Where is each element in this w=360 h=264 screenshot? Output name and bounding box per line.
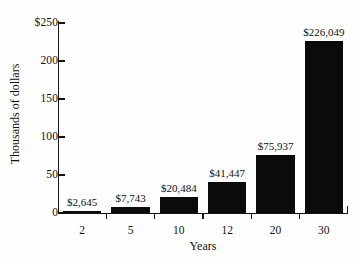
x-axis-tick-label: 2	[62, 224, 102, 236]
x-axis-title: Years	[58, 240, 348, 252]
x-axis-tick-label: 10	[159, 224, 199, 236]
bar	[256, 155, 294, 213]
x-axis-tick	[154, 213, 155, 219]
bar-chart: 050100150200$250 2510122030 $2,645$7,743…	[0, 0, 360, 264]
bar	[208, 182, 246, 213]
bar-value-label: $7,743	[98, 193, 164, 204]
bar	[160, 197, 198, 213]
x-axis-tick	[299, 213, 300, 219]
bar	[305, 41, 343, 213]
y-axis-tick-label: $250	[12, 17, 58, 29]
x-axis-tick	[251, 213, 252, 219]
x-axis-tick-label: 20	[256, 224, 296, 236]
x-axis-tick-label: 30	[304, 224, 344, 236]
bar-value-label: $41,447	[194, 168, 260, 179]
bar-value-label: $20,484	[146, 183, 212, 194]
x-axis-tick	[202, 213, 203, 219]
x-axis-tick	[106, 213, 107, 219]
bar-value-label: $226,049	[291, 27, 357, 38]
bar-value-label: $75,937	[243, 141, 309, 152]
x-axis-tick-label: 5	[111, 224, 151, 236]
x-axis-tick-label: 12	[207, 224, 247, 236]
bar	[111, 207, 149, 213]
y-axis-title: Thousands of dollars	[9, 34, 21, 194]
bar	[63, 211, 101, 214]
y-axis-tick-label: 0	[12, 207, 58, 219]
